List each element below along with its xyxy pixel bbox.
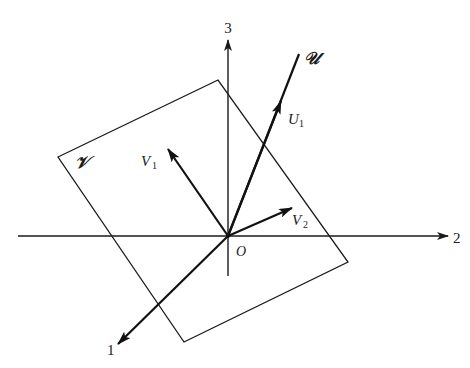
svg-text:V: V — [292, 212, 303, 228]
svg-text:1: 1 — [299, 118, 304, 129]
axis-1 — [118, 236, 228, 344]
axis-2-label: 2 — [453, 230, 461, 246]
origin-point — [226, 234, 230, 238]
plane-v — [58, 80, 348, 342]
subspace-diagram: 3 2 1 O 𝒱 𝒰 U 1 V 1 V 2 — [0, 0, 470, 368]
vector-u1-label: U 1 — [288, 111, 304, 129]
svg-text:2: 2 — [303, 219, 308, 230]
vector-v1 — [168, 149, 228, 236]
origin-label: O — [236, 244, 246, 259]
axis-3-label: 3 — [224, 20, 232, 36]
vector-v2-label: V 2 — [292, 212, 308, 230]
svg-text:V: V — [141, 153, 152, 169]
line-u-label: 𝒰 — [304, 48, 325, 68]
svg-text:1: 1 — [152, 160, 157, 171]
axis-1-label: 1 — [107, 342, 115, 358]
plane-v-label: 𝒱 — [75, 152, 95, 172]
vector-v1-label: V 1 — [141, 153, 157, 171]
